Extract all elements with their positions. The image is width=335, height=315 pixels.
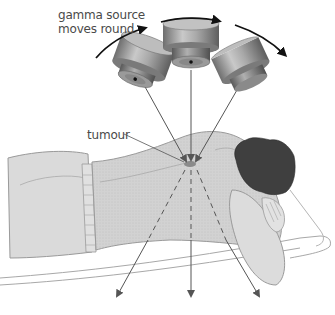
gamma-source-label: gamma source moves round [58, 8, 145, 36]
tumour-label: tumour [87, 128, 130, 142]
gamma-source-label-line1: gamma source [58, 8, 145, 22]
radiotherapy-diagram [0, 0, 335, 315]
gamma-source-label-line2: moves round [58, 22, 145, 36]
tumour [184, 161, 196, 167]
gamma-source-right [209, 33, 276, 98]
